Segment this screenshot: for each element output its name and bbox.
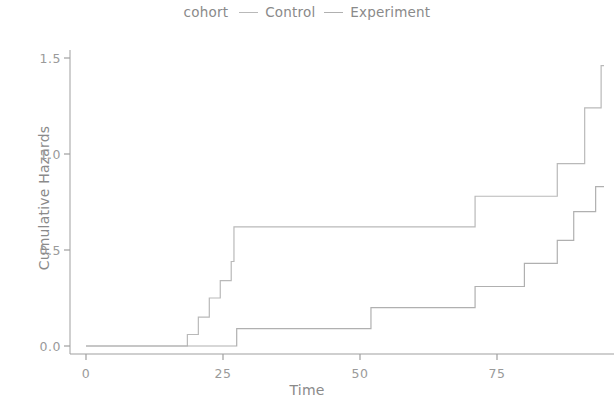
series-line-experiment	[86, 187, 604, 346]
cumulative-hazard-chart: cohort Control Experiment Cumulative Haz…	[0, 0, 614, 407]
plot-area	[0, 0, 614, 407]
series-line-control	[86, 66, 604, 346]
